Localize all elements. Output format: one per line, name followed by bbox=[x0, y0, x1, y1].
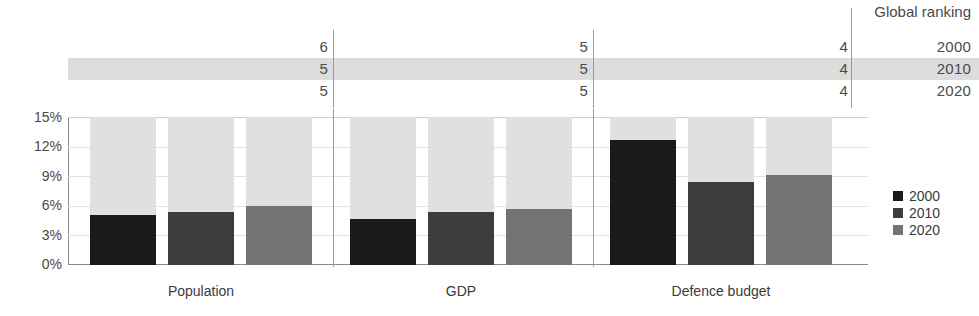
chart-figure: Global ranking 6 5 4 2000 5 5 4 2010 5 5… bbox=[0, 0, 979, 316]
group-divider-2 bbox=[593, 109, 594, 267]
rank-population-2010: 5 bbox=[180, 58, 328, 80]
bar-population-2000 bbox=[90, 117, 156, 265]
y-tick-9: 9% bbox=[2, 169, 62, 183]
bar-fill-2000 bbox=[350, 219, 416, 265]
bar-gdp-2020 bbox=[506, 117, 572, 265]
y-axis: 15% 12% 9% 6% 3% 0% bbox=[0, 108, 62, 268]
rank-year-label-2010: 2010 bbox=[856, 58, 971, 80]
ranking-separator-2 bbox=[593, 30, 594, 108]
ranking-separator-3 bbox=[851, 8, 852, 108]
legend-label-2000: 2000 bbox=[909, 189, 940, 203]
bar-population-2010 bbox=[168, 117, 234, 265]
bar-population-2020 bbox=[246, 117, 312, 265]
ranking-separator-1 bbox=[333, 30, 334, 108]
ranking-row-2010: 5 5 4 2010 bbox=[0, 58, 979, 80]
bar-fill-2000 bbox=[610, 140, 676, 265]
rank-population-2020: 5 bbox=[180, 80, 328, 102]
plot-area: Population GDP Defence budget bbox=[68, 117, 868, 265]
rank-gdp-2010: 5 bbox=[440, 58, 588, 80]
bar-defence-budget-2000 bbox=[610, 117, 676, 265]
bar-fill-2020 bbox=[246, 206, 312, 265]
legend-item-2010: 2010 bbox=[893, 205, 979, 221]
legend-swatch-icon-2000 bbox=[893, 191, 903, 201]
chart-legend: 2000 2010 2020 bbox=[893, 188, 979, 239]
bar-fill-2010 bbox=[168, 212, 234, 265]
bar-fill-2020 bbox=[506, 209, 572, 265]
legend-item-2020: 2020 bbox=[893, 222, 979, 238]
rank-gdp-2000: 5 bbox=[440, 36, 588, 58]
y-tick-0: 0% bbox=[2, 257, 62, 271]
global-ranking-table: Global ranking 6 5 4 2000 5 5 4 2010 5 5… bbox=[0, 0, 979, 108]
legend-swatch-icon-2020 bbox=[893, 225, 903, 235]
global-ranking-header: Global ranking bbox=[856, 2, 971, 22]
group-divider-1 bbox=[333, 109, 334, 267]
ranking-row-2000: 6 5 4 2000 bbox=[0, 36, 979, 58]
bar-defence-budget-2010 bbox=[688, 117, 754, 265]
ranking-row-2020: 5 5 4 2020 bbox=[0, 80, 979, 102]
rank-defence-2010: 4 bbox=[700, 58, 848, 80]
bar-fill-2020 bbox=[766, 175, 832, 265]
category-label-gdp: GDP bbox=[350, 283, 572, 299]
y-tick-15: 15% bbox=[2, 110, 62, 124]
rank-gdp-2020: 5 bbox=[440, 80, 588, 102]
rank-year-label-2020: 2020 bbox=[856, 80, 971, 102]
bar-gdp-2000 bbox=[350, 117, 416, 265]
y-axis-line bbox=[68, 117, 69, 265]
legend-label-2010: 2010 bbox=[909, 206, 940, 220]
legend-label-2020: 2020 bbox=[909, 223, 940, 237]
y-tick-3: 3% bbox=[2, 228, 62, 242]
bar-defence-budget-2020 bbox=[766, 117, 832, 265]
legend-item-2000: 2000 bbox=[893, 188, 979, 204]
legend-swatch-icon-2010 bbox=[893, 208, 903, 218]
bar-fill-2000 bbox=[90, 215, 156, 265]
rank-population-2000: 6 bbox=[180, 36, 328, 58]
bar-chart: 15% 12% 9% 6% 3% 0% bbox=[0, 108, 979, 316]
category-label-population: Population bbox=[90, 283, 312, 299]
category-label-defence-budget: Defence budget bbox=[610, 283, 832, 299]
bar-fill-2010 bbox=[428, 212, 494, 265]
y-tick-12: 12% bbox=[2, 139, 62, 153]
rank-defence-2000: 4 bbox=[700, 36, 848, 58]
bar-fill-2010 bbox=[688, 182, 754, 265]
rank-year-label-2000: 2000 bbox=[856, 36, 971, 58]
y-tick-6: 6% bbox=[2, 198, 62, 212]
rank-defence-2020: 4 bbox=[700, 80, 848, 102]
bar-gdp-2010 bbox=[428, 117, 494, 265]
